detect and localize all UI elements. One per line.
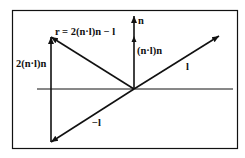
light-vector-l: [134, 36, 219, 89]
reflection-label: r = 2(n·l)n − l: [55, 27, 115, 38]
reflection-diagram: [0, 0, 245, 158]
projection-label: (n·l)n: [137, 46, 162, 57]
neg-light-label: −l: [92, 118, 101, 129]
projection-arrowhead: [132, 36, 137, 42]
normal-label: n: [138, 16, 144, 27]
double-projection-label: 2(n·l)n: [16, 59, 46, 70]
neg-light-vector: [51, 89, 134, 142]
light-label: l: [186, 62, 189, 73]
reflection-vector-r: [51, 37, 134, 89]
frame-border: [13, 11, 238, 149]
